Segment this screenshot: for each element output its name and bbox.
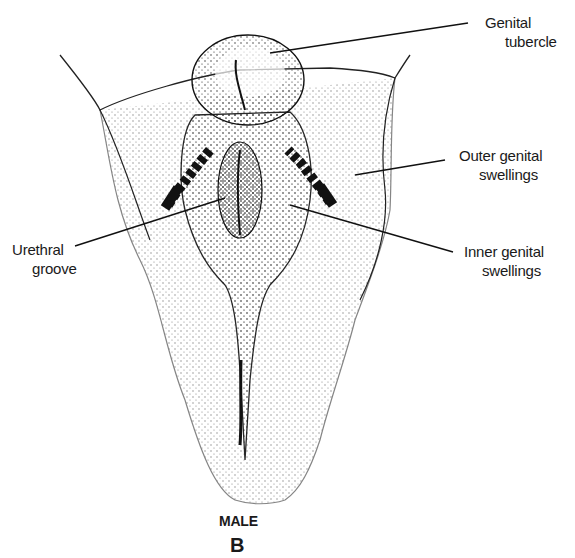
label-line: swellings <box>459 165 542 184</box>
label-genital-tubercle: Genital tubercle <box>485 13 557 51</box>
label-line: groove <box>12 259 77 278</box>
label-line: Urethral <box>12 240 77 259</box>
diagram-canvas: Genital tubercle Outer genital swellings… <box>0 0 575 558</box>
caption-male: MALE <box>219 512 258 531</box>
label-line: swellings <box>464 261 544 280</box>
leader-genital-tubercle <box>270 23 468 53</box>
label-outer-genital-swellings: Outer genital swellings <box>459 146 542 184</box>
tubercle <box>192 35 304 125</box>
label-urethral-groove: Urethral groove <box>12 240 77 278</box>
label-line: Outer genital <box>459 146 542 165</box>
label-inner-genital-swellings: Inner genital swellings <box>464 242 544 280</box>
label-line: Genital <box>485 13 557 32</box>
label-line: tubercle <box>485 32 557 51</box>
label-line: Inner genital <box>464 242 544 261</box>
panel-letter: B <box>230 536 244 555</box>
